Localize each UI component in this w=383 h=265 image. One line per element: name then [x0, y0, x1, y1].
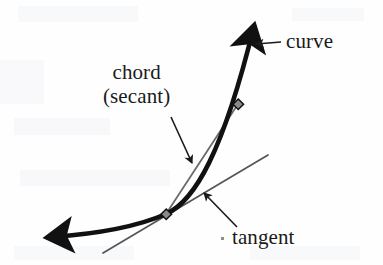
- curve-leader-arrow: [256, 42, 281, 44]
- scan-speck-artifact: [221, 237, 224, 240]
- chord-leader-arrow: [171, 117, 192, 163]
- chord-label-line2: (secant): [103, 85, 170, 109]
- tangent-leader-arrow: [204, 193, 237, 227]
- figure-canvas: curve chord (secant) tangent: [0, 0, 383, 265]
- curve-label: curve: [286, 30, 333, 54]
- chord-label-line1: chord: [112, 60, 160, 84]
- tangent-label: tangent: [232, 226, 295, 250]
- chord-secant-label: chord (secant): [103, 61, 170, 108]
